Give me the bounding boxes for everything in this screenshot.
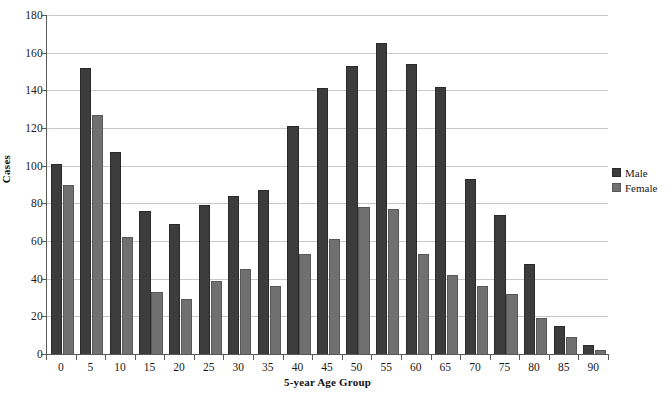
bar-female-30 [240, 269, 251, 354]
bar-male-25 [199, 205, 210, 354]
x-tick-mark-45 [312, 355, 313, 360]
bar-male-45 [317, 88, 328, 354]
bar-female-35 [270, 286, 281, 354]
x-axis-ticks: 051015202530354045505560657075808590 [46, 355, 609, 395]
bar-female-50 [358, 207, 369, 354]
x-tick-label-20: 20 [164, 361, 194, 373]
x-tick-label-50: 50 [342, 361, 372, 373]
gridline-180 [46, 15, 608, 16]
bar-female-65 [447, 275, 458, 354]
x-tick-mark-40 [283, 355, 284, 360]
x-axis-title: 5-year Age Group [46, 376, 609, 388]
bar-female-60 [418, 254, 429, 354]
bar-male-70 [465, 179, 476, 354]
bar-male-80 [524, 264, 535, 354]
y-tick-mark-140 [41, 90, 46, 91]
x-tick-label-30: 30 [223, 361, 253, 373]
bar-female-80 [536, 318, 547, 354]
legend-swatch-icon-female [612, 183, 621, 192]
x-tick-label-10: 10 [105, 361, 135, 373]
x-tick-label-80: 80 [519, 361, 549, 373]
bar-female-75 [506, 294, 517, 354]
bar-female-5 [92, 115, 103, 354]
x-tick-mark-50 [342, 355, 343, 360]
y-tick-mark-100 [41, 166, 46, 167]
x-tick-mark-65 [431, 355, 432, 360]
x-tick-mark-0 [46, 355, 47, 360]
x-tick-label-0: 0 [46, 361, 76, 373]
bar-male-85 [554, 326, 565, 354]
bar-female-85 [566, 337, 577, 354]
y-tick-label-60: 60 [3, 235, 43, 247]
x-tick-label-90: 90 [578, 361, 608, 373]
legend-item-male[interactable]: Male [612, 166, 657, 179]
y-tick-label-80: 80 [3, 197, 43, 209]
x-tick-label-65: 65 [430, 361, 460, 373]
x-tick-mark-end [608, 355, 609, 360]
x-tick-mark-80 [519, 355, 520, 360]
y-tick-mark-160 [41, 53, 46, 54]
y-tick-label-40: 40 [3, 273, 43, 285]
legend-label-male: Male [625, 167, 648, 179]
x-tick-mark-60 [401, 355, 402, 360]
y-tick-mark-60 [41, 241, 46, 242]
y-axis-title: Cases [0, 155, 12, 183]
bar-male-60 [406, 64, 417, 354]
legend-swatch-icon-male [612, 168, 621, 177]
x-tick-label-45: 45 [312, 361, 342, 373]
bar-male-20 [169, 224, 180, 354]
bar-male-55 [376, 43, 387, 354]
x-tick-mark-75 [490, 355, 491, 360]
y-tick-label-120: 120 [3, 122, 43, 134]
bar-female-70 [477, 286, 488, 354]
bar-male-65 [435, 87, 446, 354]
x-tick-label-60: 60 [401, 361, 431, 373]
bar-female-0 [63, 185, 74, 355]
y-axis-ticks: 020406080100120140160180 [0, 0, 43, 395]
x-tick-label-5: 5 [75, 361, 105, 373]
y-tick-label-160: 160 [3, 47, 43, 59]
bar-male-30 [228, 196, 239, 354]
x-tick-label-40: 40 [282, 361, 312, 373]
chart-legend: MaleFemale [612, 166, 657, 196]
bar-female-20 [181, 299, 192, 354]
x-tick-mark-55 [371, 355, 372, 360]
x-tick-label-70: 70 [460, 361, 490, 373]
y-tick-mark-80 [41, 203, 46, 204]
x-tick-mark-35 [253, 355, 254, 360]
bar-female-55 [388, 209, 399, 354]
x-tick-mark-30 [223, 355, 224, 360]
gridline-160 [46, 53, 608, 54]
y-tick-label-180: 180 [3, 9, 43, 21]
plot-area [46, 15, 608, 354]
bar-chart: 020406080100120140160180 Cases 051015202… [0, 0, 671, 395]
y-tick-mark-20 [41, 316, 46, 317]
bar-female-40 [299, 254, 310, 354]
y-tick-label-140: 140 [3, 84, 43, 96]
x-tick-label-25: 25 [194, 361, 224, 373]
bar-female-15 [151, 292, 162, 354]
bar-male-75 [494, 215, 505, 354]
y-tick-mark-120 [41, 128, 46, 129]
legend-label-female: Female [625, 182, 657, 194]
bar-male-15 [139, 211, 150, 354]
x-tick-label-75: 75 [489, 361, 519, 373]
bar-female-10 [122, 237, 133, 354]
x-tick-mark-15 [135, 355, 136, 360]
x-tick-label-35: 35 [253, 361, 283, 373]
y-tick-mark-180 [41, 15, 46, 16]
x-tick-mark-85 [549, 355, 550, 360]
bar-male-40 [287, 126, 298, 354]
x-tick-label-15: 15 [135, 361, 165, 373]
x-tick-label-85: 85 [549, 361, 579, 373]
bar-male-50 [346, 66, 357, 354]
x-tick-mark-70 [460, 355, 461, 360]
x-tick-mark-5 [76, 355, 77, 360]
bar-male-35 [258, 190, 269, 354]
legend-item-female[interactable]: Female [612, 181, 657, 194]
y-tick-label-20: 20 [3, 310, 43, 322]
x-tick-mark-20 [164, 355, 165, 360]
bar-female-25 [211, 281, 222, 354]
x-tick-mark-90 [578, 355, 579, 360]
bar-male-90 [583, 345, 594, 354]
